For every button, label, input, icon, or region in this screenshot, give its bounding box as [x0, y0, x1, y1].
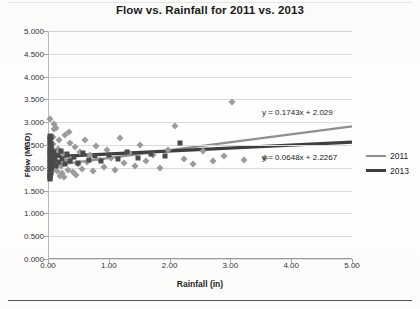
data-point-2013: [107, 153, 112, 158]
x-tick-mark: [352, 259, 353, 263]
x-tick-mark: [109, 259, 110, 263]
y-tick-label: 3.500: [24, 95, 44, 104]
x-tick-mark: [291, 259, 292, 263]
data-point-2013: [136, 155, 141, 160]
data-point-2013: [60, 156, 65, 161]
y-tick-label: 2.000: [24, 163, 44, 172]
chart-title: Flow vs. Rainfall for 2011 vs. 2013: [0, 4, 420, 16]
gridline-horizontal: [49, 236, 352, 237]
data-point-2013: [49, 142, 54, 147]
legend-item-2011[interactable]: 2011: [366, 148, 420, 163]
gridline-horizontal: [49, 122, 352, 123]
data-point-2013: [58, 149, 63, 154]
data-point-2013: [76, 161, 81, 166]
y-tick-label: 4.500: [24, 49, 44, 58]
data-point-2013: [81, 151, 86, 156]
y-tick-mark: [44, 122, 48, 123]
data-point-2013: [178, 140, 183, 145]
data-point-2013: [86, 157, 91, 162]
y-tick-label: 4.000: [24, 72, 44, 81]
x-axis-tick-labels: 0.001.002.003.004.005.00: [48, 261, 352, 275]
gridline-horizontal: [49, 54, 352, 55]
data-point-2013: [148, 152, 153, 157]
y-tick-label: 1.500: [24, 186, 44, 195]
y-tick-label: 1.000: [24, 209, 44, 218]
legend-swatch-2013-icon: [366, 169, 386, 172]
data-point-2013: [48, 134, 53, 139]
gridline-horizontal: [49, 213, 352, 214]
x-tick-mark: [170, 259, 171, 263]
y-tick-mark: [44, 77, 48, 78]
trendline-equation-2013: y = 0.0648x + 2.2267: [262, 153, 337, 162]
y-tick-mark: [44, 236, 48, 237]
y-tick-mark: [44, 54, 48, 55]
y-tick-mark: [44, 145, 48, 146]
data-point-2013: [65, 152, 70, 157]
x-tick-mark: [48, 259, 49, 263]
data-point-2013: [92, 153, 97, 158]
y-axis-tick-labels: 0.0000.5001.0001.5002.0002.5003.0003.500…: [0, 31, 48, 259]
data-point-2013: [71, 154, 76, 159]
data-point-2013: [62, 162, 67, 167]
data-point-2013: [115, 156, 120, 161]
data-point-2013: [162, 153, 167, 158]
legend-label-2013: 2013: [390, 166, 409, 176]
y-tick-label: 3.000: [24, 118, 44, 127]
gridline-horizontal: [49, 259, 352, 260]
y-tick-label: 0.500: [24, 232, 44, 241]
gridline-horizontal: [49, 191, 352, 192]
y-tick-mark: [44, 191, 48, 192]
top-divider: [8, 2, 412, 3]
data-point-2013: [48, 175, 53, 180]
gridline-horizontal: [49, 31, 352, 32]
x-axis-title: Rainfall (in): [48, 279, 352, 289]
gridline-horizontal: [49, 99, 352, 100]
y-tick-mark: [44, 213, 48, 214]
bottom-divider: [8, 300, 412, 301]
legend-swatch-2011-icon: [366, 155, 386, 157]
gridline-horizontal: [49, 77, 352, 78]
data-point-2013: [99, 159, 104, 164]
trendline-equation-2011: y = 0.1743x + 2.029: [262, 108, 333, 117]
chart-legend: 2011 2013: [366, 148, 420, 178]
chart-figure: Flow vs. Rainfall for 2011 vs. 2013 Flow…: [0, 0, 420, 309]
x-tick-mark: [230, 259, 231, 263]
y-tick-mark: [44, 168, 48, 169]
y-tick-label: 2.500: [24, 141, 44, 150]
y-tick-mark: [44, 31, 48, 32]
y-tick-label: 5.000: [24, 27, 44, 36]
legend-label-2011: 2011: [390, 151, 408, 161]
legend-item-2013[interactable]: 2013: [366, 163, 420, 178]
data-point-2013: [125, 150, 130, 155]
y-tick-mark: [44, 99, 48, 100]
plot-area: [48, 31, 352, 259]
